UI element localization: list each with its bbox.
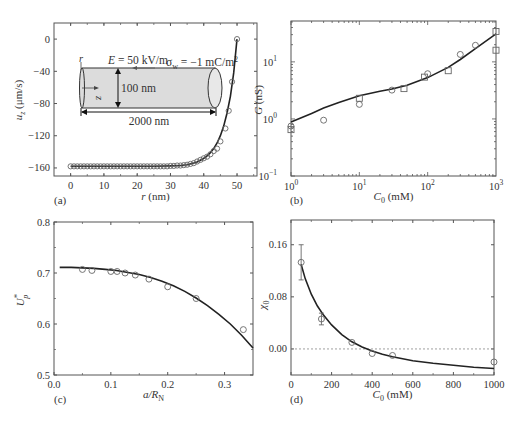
y-tick-label: 0.00 [269,343,287,354]
y-tick-label: −120 [28,130,50,141]
x-tick-label: 0.1 [104,379,117,390]
x-tick-label: 100 [284,178,299,192]
x-tick-label: 40 [199,180,210,191]
x-axis-label: a/RN [143,388,164,403]
y-tick-label: −80 [34,98,50,109]
nanochannel-schematic: 100 nm2000 nmrzE = 50 kV/mσw = −1 mC/m2 [79,53,238,127]
x-tick-label: 0 [288,379,293,390]
y-axis-label: G (nS) [252,85,265,115]
x-tick-label: 0.2 [161,379,174,390]
y-tick-label: 0.5 [37,370,50,381]
panel-b-conductance-plot: 10010110210310−1100101C0 (mM)G (nS)(b) [252,21,503,207]
plot-frame [291,220,494,375]
z-axis-label: z [94,95,105,100]
panel-c-particle-velocity-plot: 0.00.10.20.30.50.60.70.8a/RNU*p(c) [12,217,253,407]
data-point-circle [165,284,171,290]
panel-a-velocity-profile: 010203040500−40−80−120−160100 nm2000 nmr… [12,23,257,207]
nanochannel-right-cap [208,68,222,108]
y-tick-label: −40 [34,66,50,77]
model-curve [60,267,253,348]
y-tick-label: 0.8 [37,217,50,228]
y-tick-label: 100 [263,111,278,125]
data-point-circle [321,117,327,123]
y-tick-label: −160 [28,162,50,173]
data-point-circle [457,51,463,57]
y-axis-label: U*p [12,293,30,306]
y-axis-label: χ0 [256,301,271,311]
x-tick-label: 0.3 [218,379,231,390]
plot-frame [54,222,253,375]
y-tick-label: 0.08 [269,291,287,302]
y-tick-label: 0 [45,34,50,45]
y-tick-label: 10−1 [259,168,278,182]
model-curve [301,264,494,368]
panel-label: (c) [54,393,67,406]
y-tick-label: 0.7 [37,268,50,279]
field-label: E = 50 kV/m [107,54,168,66]
x-axis-label: C0 (mM) [373,388,413,403]
x-tick-label: 200 [324,379,340,390]
x-axis-label: C0 (mM) [374,190,414,205]
data-point-circle [472,42,478,48]
y-tick-label: 101 [263,54,278,68]
length-label: 2000 nm [129,115,170,127]
diameter-label: 100 nm [121,82,156,94]
x-tick-label: 0 [68,180,73,191]
figure-canvas: 010203040500−40−80−120−160100 nm2000 nmr… [0,0,519,422]
x-tick-label: 800 [446,379,462,390]
plot-frame [291,21,496,176]
y-axis-label: uz (μm/s) [12,79,27,120]
y-tick-label: 0.16 [269,239,287,250]
x-tick-label: 102 [421,178,436,192]
data-point-circle [240,327,246,333]
arrow-head-icon [81,109,87,115]
arrow-head-icon [210,109,216,115]
x-tick-label: 1000 [484,379,505,390]
y-tick-label: 0.6 [37,319,50,330]
x-tick-label: 0.0 [47,379,60,390]
x-tick-label: 10 [99,180,110,191]
x-axis-label: r (nm) [141,190,170,203]
data-point-circle [132,272,138,278]
x-tick-label: 101 [352,178,367,192]
panel-label: (a) [54,194,67,207]
data-point-circle [356,101,362,107]
panel-label: (b) [290,194,303,207]
panel-label: (d) [290,393,303,406]
model-curve [291,34,496,122]
x-tick-label: 103 [489,178,504,192]
x-tick-label: 50 [232,180,243,191]
panel-d-chi-plot: 020040060080010000.160.080.00C0 (mM)χ0(d… [256,220,505,406]
r-axis-label: r [79,53,84,64]
